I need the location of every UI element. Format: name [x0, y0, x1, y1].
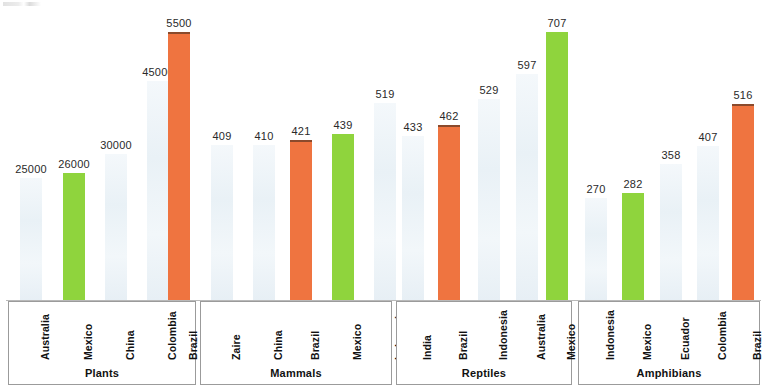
bar-slot: 270 — [585, 198, 607, 300]
bar-mammals-zaire — [211, 145, 233, 300]
category-label-mexico: Mexico — [349, 302, 365, 360]
group-box-amphibians: IndonesiaMexicoEcuadorColombiaBrazilAmph… — [578, 301, 760, 385]
bar-slot: 25000 — [20, 178, 42, 300]
category-label-colombia: Colombia — [714, 302, 730, 360]
bar-slot: 30000 — [105, 154, 127, 300]
bar-plants-colombia — [147, 81, 169, 300]
bar-amphibians-colombia — [697, 146, 719, 300]
bar-value-label: 5500 — [149, 17, 209, 29]
bar-amphibians-mexico — [622, 193, 644, 300]
group-box-plants: AustraliaMexicoChinaColombiaBrazilPlants — [8, 301, 196, 385]
bar-value-label: 282 — [603, 178, 663, 190]
bar-plants-australia — [20, 178, 42, 300]
bar-slot: 439 — [332, 134, 354, 300]
category-label-indonesia: Indonesia — [602, 302, 618, 360]
bar-slot: 358 — [660, 164, 682, 300]
bar-slot: 410 — [253, 145, 275, 300]
bar-plants-mexico — [63, 173, 85, 300]
bar-mammals-mexico — [332, 134, 354, 300]
category-label-australia: Australia — [37, 302, 53, 360]
category-labels: AustraliaMexicoChinaColombiaBrazil — [9, 302, 195, 362]
group-name-mammals: Mammals — [201, 367, 391, 379]
bar-value-label: 516 — [713, 89, 766, 101]
bar-amphibians-indonesia — [585, 198, 607, 300]
bar-slot: 516 — [732, 104, 754, 300]
category-label-zaire: Zaire — [228, 302, 244, 360]
bar-slot: 707 — [546, 32, 568, 300]
bar-plants-brazil — [168, 32, 190, 300]
group-box-mammals: ZaireChinaBrazilMexicoIndonesiaMammals — [200, 301, 392, 385]
category-label-india: India — [419, 302, 435, 360]
bar-amphibians-ecuador — [660, 164, 682, 300]
bar-reptiles-mexico — [546, 32, 568, 300]
category-label-boxes: AustraliaMexicoChinaColombiaBrazilPlants… — [0, 301, 761, 387]
bar-value-label: 529 — [459, 84, 519, 96]
category-label-brazil: Brazil — [749, 302, 765, 360]
group-name-amphibians: Amphibians — [579, 367, 759, 379]
category-labels: ZaireChinaBrazilMexicoIndonesia — [201, 302, 391, 362]
category-labels: IndonesiaMexicoEcuadorColombiaBrazil — [579, 302, 759, 362]
group-box-reptiles: IndiaBrazilIndonesiaAustraliaMexicoRepti… — [396, 301, 572, 385]
bar-reptiles-brazil — [438, 125, 460, 300]
category-label-australia: Australia — [533, 302, 549, 360]
bar-mammals-china — [253, 145, 275, 300]
category-label-brazil: Brazil — [455, 302, 471, 360]
category-label-mexico: Mexico — [80, 302, 96, 360]
category-label-colombia: Colombia — [164, 302, 180, 360]
bar-slot: 409 — [211, 145, 233, 300]
bar-value-label: 439 — [313, 119, 373, 131]
bar-value-label: 433 — [383, 121, 443, 133]
bar-amphibians-brazil — [732, 104, 754, 300]
bar-slot: 421 — [290, 140, 312, 300]
bar-value-label: 30000 — [86, 139, 146, 151]
bar-plants-china — [105, 154, 127, 300]
bar-value-label: 26000 — [44, 158, 104, 170]
group-name-reptiles: Reptiles — [397, 367, 571, 379]
bar-mammals-brazil — [290, 140, 312, 300]
bar-reptiles-india — [402, 136, 424, 300]
category-label-ecuador: Ecuador — [677, 302, 693, 360]
bar-slot: 462 — [438, 125, 460, 300]
category-label-mexico: Mexico — [639, 302, 655, 360]
category-label-brazil: Brazil — [307, 302, 323, 360]
bar-value-label: 707 — [527, 17, 587, 29]
bar-value-label: 519 — [355, 88, 415, 100]
category-label-mexico: Mexico — [563, 302, 579, 360]
bar-slot: 5500 — [168, 32, 190, 300]
group-name-plants: Plants — [9, 367, 195, 379]
category-label-indonesia: Indonesia — [495, 302, 511, 360]
bar-reptiles-indonesia — [478, 99, 500, 300]
bar-slot: 26000 — [63, 173, 85, 300]
bar-slot: 529 — [478, 99, 500, 300]
category-label-china: China — [122, 302, 138, 360]
category-labels: IndiaBrazilIndonesiaAustraliaMexico — [397, 302, 571, 362]
bar-value-label: 462 — [419, 110, 479, 122]
plot-area: 2500026000300004500055004094104214395194… — [0, 0, 761, 301]
category-label-brazil: Brazil — [185, 302, 201, 360]
bar-value-label: 358 — [641, 149, 701, 161]
bar-reptiles-australia — [516, 74, 538, 300]
bar-slot: 433 — [402, 136, 424, 300]
bar-slot: 45000 — [147, 81, 169, 300]
bar-slot: 282 — [622, 193, 644, 300]
bar-slot: 407 — [697, 146, 719, 300]
bar-value-label: 407 — [678, 131, 738, 143]
bar-slot: 597 — [516, 74, 538, 300]
category-label-china: China — [270, 302, 286, 360]
